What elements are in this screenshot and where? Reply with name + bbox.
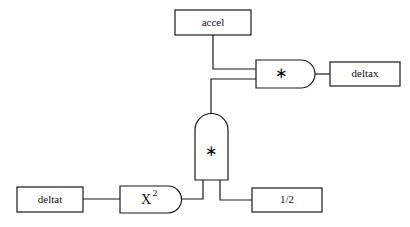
wire-half-to-mult-mid	[220, 180, 252, 200]
deltat-label: deltat	[38, 193, 62, 205]
half-label: 1/2	[280, 193, 294, 205]
wire-mult-mid-to-mult-top	[211, 79, 256, 113]
dataflow-diagram: accel deltax deltat 1/2 ∗ ∗	[0, 0, 410, 227]
accel-label: accel	[202, 16, 225, 28]
deltax-label: deltax	[352, 67, 379, 79]
node-deltax[interactable]: deltax	[330, 62, 400, 86]
node-deltat[interactable]: deltat	[17, 187, 83, 212]
wire-accel-to-mult-top	[213, 35, 256, 69]
node-multiply-top[interactable]: ∗	[256, 60, 315, 88]
node-square-function[interactable]: X 2	[120, 186, 182, 213]
node-accel[interactable]: accel	[175, 10, 251, 35]
node-multiply-middle[interactable]: ∗	[195, 114, 228, 181]
multiply-middle-symbol: ∗	[205, 143, 218, 159]
square-base-label: X	[141, 192, 151, 207]
square-exponent-label: 2	[153, 188, 158, 198]
wire-square-to-mult-mid	[182, 180, 203, 199]
diagram-canvas-container: accel deltax deltat 1/2 ∗ ∗	[0, 0, 410, 227]
node-half-constant[interactable]: 1/2	[252, 188, 322, 212]
multiply-top-symbol: ∗	[275, 65, 288, 81]
